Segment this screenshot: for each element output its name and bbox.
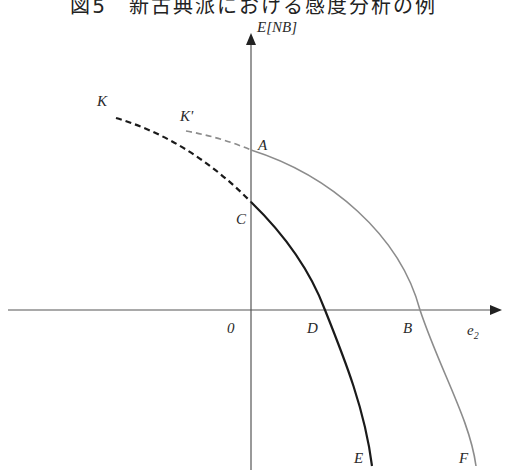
x-axis-arrow-icon [490,305,502,315]
y-axis-label: E[NB] [256,19,297,35]
point-label-k: K [96,93,108,109]
x-axis-label: e2 [467,322,479,341]
point-label-f: F [458,450,469,466]
gray-curve-dashed-segment [186,131,251,150]
y-axis-arrow-icon [246,33,256,45]
black-curve [116,118,372,466]
axes [8,33,502,470]
point-label-e: E [353,450,363,466]
point-label-d: D [306,320,318,336]
point-label-c: C [236,211,247,227]
diagram-canvas: E[NB] e2 0 K K' A C D B E F [0,0,507,473]
point-label-a: A [257,137,268,153]
black-curve-dashed-segment [116,118,251,202]
point-label-k-prime: K' [179,108,194,124]
origin-label: 0 [227,320,235,336]
point-label-b: B [403,320,412,336]
